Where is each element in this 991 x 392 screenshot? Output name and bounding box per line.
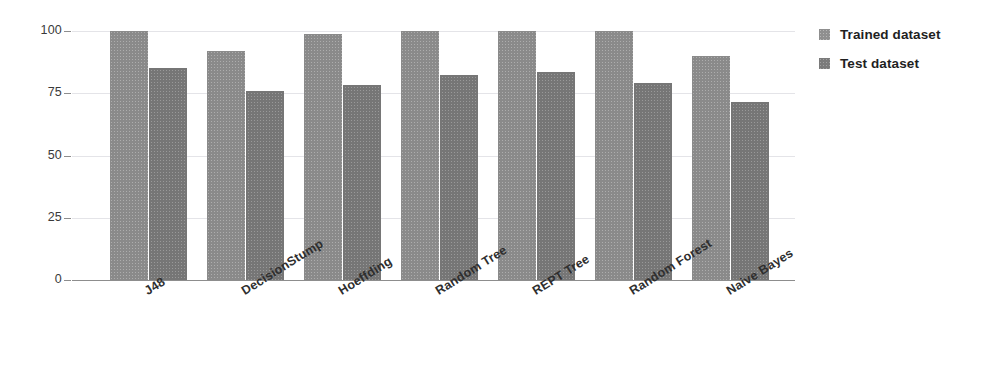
bar bbox=[731, 102, 769, 280]
bar bbox=[634, 83, 672, 280]
bar bbox=[207, 51, 245, 280]
y-axis-tick-mark bbox=[64, 156, 71, 157]
bar bbox=[595, 31, 633, 280]
legend-item-test-dataset[interactable]: Test dataset bbox=[819, 49, 989, 78]
y-axis-tick-mark bbox=[64, 218, 71, 219]
y-axis-tick-mark bbox=[64, 280, 71, 281]
bar bbox=[110, 31, 148, 280]
bar bbox=[498, 31, 536, 280]
bar bbox=[246, 91, 284, 280]
legend-item-trained-dataset[interactable]: Trained dataset bbox=[819, 20, 989, 49]
plot-area bbox=[72, 31, 795, 280]
y-axis-tick-label: 75 bbox=[48, 85, 62, 99]
y-axis-tick-mark bbox=[64, 31, 71, 32]
y-axis-tick-label: 100 bbox=[41, 23, 62, 37]
bar bbox=[537, 72, 575, 280]
legend-item-label: Test dataset bbox=[840, 56, 919, 71]
y-axis-tick-label: 25 bbox=[48, 210, 62, 224]
y-axis-tick-label: 0 bbox=[55, 272, 62, 286]
y-axis-tick-mark bbox=[64, 93, 71, 94]
bar bbox=[343, 85, 381, 280]
trained-dataset-swatch-icon bbox=[819, 29, 830, 40]
legend: Trained dataset Test dataset bbox=[819, 20, 989, 78]
bar bbox=[440, 75, 478, 280]
y-axis-tick-label: 50 bbox=[48, 148, 62, 162]
bar bbox=[401, 31, 439, 280]
y-axis: 0255075100 bbox=[0, 0, 62, 392]
bar bbox=[149, 68, 187, 280]
test-dataset-swatch-icon bbox=[819, 58, 830, 69]
bar-chart: 0255075100 J48DecisionStumpHoeffdingRand… bbox=[0, 0, 991, 392]
x-axis-line bbox=[72, 280, 795, 281]
legend-item-label: Trained dataset bbox=[840, 27, 941, 42]
